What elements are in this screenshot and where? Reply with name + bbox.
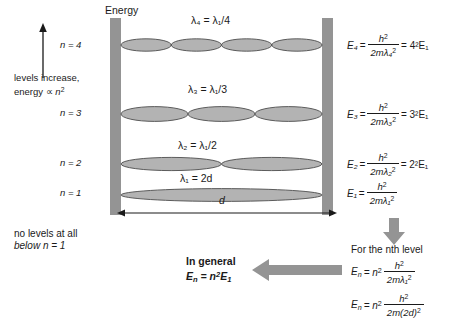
energy-equation-n3-equals: = xyxy=(360,109,366,120)
standing-wave-n3 xyxy=(121,99,322,129)
energy-proportional-exponent: 2 xyxy=(61,86,65,93)
no-levels-line1: no levels at all xyxy=(14,228,77,239)
energy-equation-n2-numerator: h2 xyxy=(375,151,390,163)
nth-eq1-denominator: 2mλ₁2 xyxy=(384,271,415,285)
energy-equation-n3-numerator: h2 xyxy=(376,101,391,113)
nth-level-heading: For the nth level xyxy=(351,244,423,256)
energy-equation-n4: E₄ = h2 2mλ₄2 = 4²E₁ xyxy=(347,32,429,58)
energy-equation-n1-equals: = xyxy=(359,188,365,199)
energy-equation-n2-lhs: E₂ xyxy=(347,159,357,170)
left-wall xyxy=(110,18,121,215)
energy-equation-n2-denominator: 2mλ₂2 xyxy=(367,163,398,177)
energy-proportional-line: energy ∝ n2 xyxy=(14,86,64,97)
right-wall xyxy=(322,18,333,215)
energy-equation-n3-lhs: E₃ xyxy=(347,109,358,120)
down-arrow-icon xyxy=(382,218,406,246)
standing-wave-n2 xyxy=(121,150,322,178)
wavelength-label-n1: λ₁ = 2d xyxy=(180,172,212,184)
nth-eq2-prefix: = n2 xyxy=(364,299,382,311)
energy-equation-n4-fraction: h2 2mλ₄2 xyxy=(368,32,400,58)
in-general-formula-rhs: = n2 xyxy=(198,270,221,282)
in-general-formula-tail: E1 xyxy=(220,270,231,282)
nth-eq1-prefix: = n2 xyxy=(364,266,382,278)
in-general-formula: En = n2E1 xyxy=(186,269,231,286)
energy-equation-n2-rhs: = 2²E₁ xyxy=(401,159,429,170)
level-label-n4: n = 4 xyxy=(60,39,81,51)
energy-proportional-text: energy ∝ n xyxy=(14,86,61,97)
nth-level-equation-lambda: En = n2 h2 2mλ₁2 xyxy=(351,259,415,285)
nth-level-equation-width: En = n2 h2 2m(2d)2 xyxy=(351,292,424,318)
wavelength-label-n3: λ₃ = λ₁/3 xyxy=(188,83,227,95)
energy-equation-n1: E₁ = h2 2mλ₁2 xyxy=(347,180,397,206)
nth-eq2-lhs: En xyxy=(351,299,362,312)
wavelength-label-n4: λ₄ = λ₁/4 xyxy=(191,14,230,26)
energy-equation-n3-rhs: = 3²E₁ xyxy=(401,109,429,120)
energy-equation-n3: E₃ = h2 2mλ₃2 = 3²E₁ xyxy=(347,101,429,127)
energy-equation-n4-rhs: = 4²E₁ xyxy=(401,40,429,51)
energy-axis-label: Energy xyxy=(105,4,138,16)
energy-equation-n1-numerator: h2 xyxy=(374,180,389,192)
nth-eq2-numerator: h2 xyxy=(396,292,411,304)
energy-equation-n2-equals: = xyxy=(359,159,365,170)
wavelength-label-n2: λ₂ = λ₁/2 xyxy=(178,139,217,151)
nth-eq2-denominator: 2m(2d)2 xyxy=(384,304,424,318)
left-arrow-icon xyxy=(252,258,342,282)
energy-equation-n1-lhs: E₁ xyxy=(347,188,357,199)
energy-equation-n4-lhs: E₄ xyxy=(347,40,358,51)
energy-equation-n3-denominator: 2mλ₃2 xyxy=(367,113,398,127)
nth-eq1-numerator: h2 xyxy=(392,259,407,271)
nth-eq1-fraction: h2 2mλ₁2 xyxy=(384,259,415,285)
box-width-dimension-arrow xyxy=(117,205,337,221)
energy-equation-n2: E₂ = h2 2mλ₂2 = 2²E₁ xyxy=(347,151,428,177)
energy-equation-n4-equals: = xyxy=(360,40,366,51)
level-label-n1: n = 1 xyxy=(60,187,81,199)
energy-equation-n1-denominator: 2mλ₁2 xyxy=(367,192,398,206)
in-general-heading: In general xyxy=(186,255,236,267)
level-label-n2: n = 2 xyxy=(60,157,81,169)
no-levels-note: no levels at all below n = 1 xyxy=(14,228,77,252)
nth-eq2-fraction: h2 2m(2d)2 xyxy=(384,292,424,318)
levels-increase-arrow-icon xyxy=(34,22,52,78)
energy-equation-n3-fraction: h2 2mλ₃2 xyxy=(367,101,398,127)
energy-equation-n1-fraction: h2 2mλ₁2 xyxy=(367,180,398,206)
no-levels-line2: below n = 1 xyxy=(14,240,65,251)
level-label-n3: n = 3 xyxy=(60,107,81,119)
in-general-formula-lhs: En xyxy=(186,270,198,282)
levels-increase-line1: levels increase, xyxy=(14,72,79,83)
standing-wave-n4 xyxy=(121,31,322,59)
energy-equation-n4-numerator: h2 xyxy=(376,32,391,44)
energy-equation-n2-fraction: h2 2mλ₂2 xyxy=(367,151,398,177)
nth-eq1-lhs: En xyxy=(351,266,362,279)
box-width-label: d xyxy=(219,194,225,206)
energy-equation-n4-denominator: 2mλ₄2 xyxy=(368,44,400,58)
levels-increase-label: levels increase, energy ∝ n2 xyxy=(14,72,79,98)
